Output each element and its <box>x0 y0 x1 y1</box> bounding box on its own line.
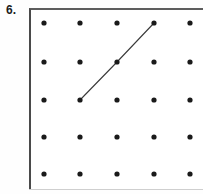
panel-bottom-rule <box>29 189 203 190</box>
problem-number-label: 6. <box>6 3 16 17</box>
worksheet-problem-panel: 6. <box>0 0 203 194</box>
dot-grid-panel <box>29 8 203 190</box>
